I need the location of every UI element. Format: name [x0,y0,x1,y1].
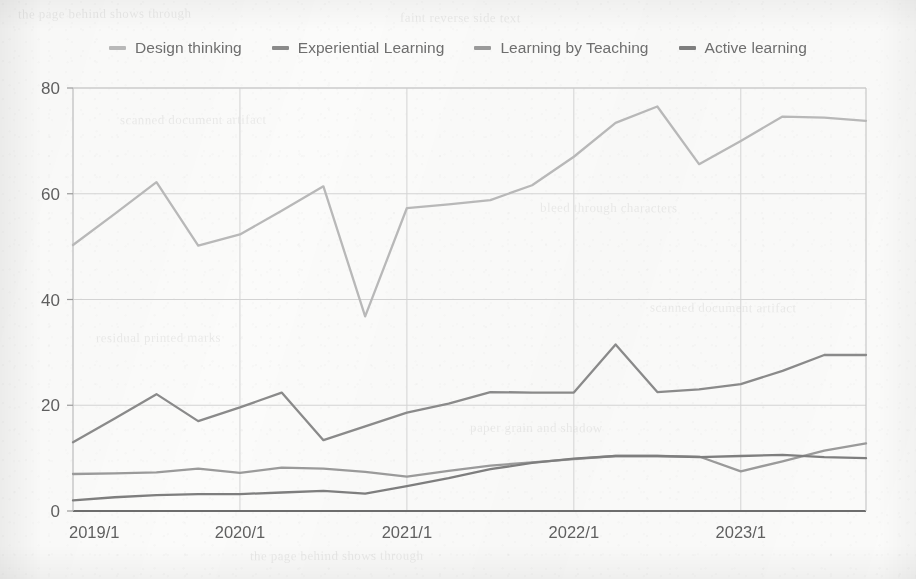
chart-plot-area: 806040200 2019/12020/12021/12022/12023/1 [0,0,916,579]
series-line-learning-by-teaching [73,443,866,476]
y-axis-tick-label: 40 [41,291,60,310]
y-axis-tick-labels: 806040200 [41,79,60,521]
x-axis-tick-label: 2022/1 [549,523,599,541]
x-axis-tick-label: 2023/1 [716,523,766,541]
y-axis-tick-label: 60 [41,185,60,204]
x-axis-tick-label: 2021/1 [382,523,432,541]
y-axis-tick-label: 0 [51,502,60,521]
x-axis-tick-labels: 2019/12020/12021/12022/12023/1 [69,523,766,541]
y-axis-tick-label: 20 [41,396,60,415]
x-axis-tick-label: 2019/1 [69,523,119,541]
series-line-experiential-learning [73,344,866,442]
y-axis-tick-label: 80 [41,79,60,98]
series-line-active-learning [73,455,866,500]
line-chart-svg: 806040200 2019/12020/12021/12022/12023/1 [0,0,916,579]
series-line-design-thinking [73,107,866,317]
x-axis-tick-label: 2020/1 [215,523,265,541]
chart-series-group [73,107,866,501]
chart-gridlines [73,88,866,511]
